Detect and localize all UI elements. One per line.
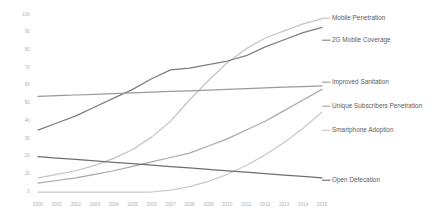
y-tick-label: 60	[14, 83, 30, 88]
series-label-improved-sanitation: Improved Sanitation	[332, 79, 389, 85]
series-line-2g-mobile-coverage	[38, 27, 322, 130]
y-tick-label: 80	[14, 48, 30, 53]
chart-plot-area	[0, 0, 448, 221]
y-tick-label: 100	[14, 13, 30, 18]
series-line-improved-sanitation	[38, 86, 322, 97]
y-tick-label: 10	[14, 172, 30, 177]
series-label-unique-subscribers-penetration: Unique Subscribers Penetration	[332, 103, 422, 109]
line-chart: 1009080706050403020100 20002001200220032…	[0, 0, 448, 221]
series-label-mobile-penetration: Mobile Penetration	[332, 15, 385, 21]
x-tick-label: 2015	[311, 203, 333, 208]
series-label-2g-mobile-coverage: 2G Mobile Coverage	[332, 37, 391, 43]
y-tick-label: 70	[14, 66, 30, 71]
series-label-open-defecation: Open Defecation	[332, 177, 380, 183]
y-tick-label: 0	[14, 190, 30, 195]
series-label-smartphone-adoption: Smartphone Adoption	[332, 127, 393, 133]
y-tick-label: 30	[14, 137, 30, 142]
series-layer	[38, 19, 322, 192]
series-line-smartphone-adoption	[38, 112, 322, 192]
series-line-mobile-penetration	[38, 19, 322, 178]
y-tick-label: 20	[14, 154, 30, 159]
series-line-open-defecation	[38, 157, 322, 178]
y-tick-label: 90	[14, 30, 30, 35]
y-tick-label: 50	[14, 101, 30, 106]
y-tick-label: 40	[14, 119, 30, 124]
label-leader-lines	[322, 18, 331, 180]
